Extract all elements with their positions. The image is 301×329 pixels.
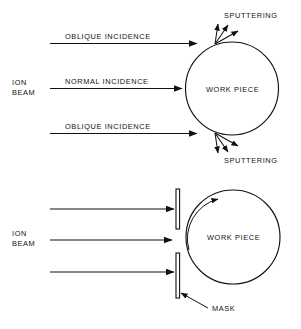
work-piece-label-bottom: WORK PIECE: [207, 233, 260, 242]
work-piece-label-top: WORK PIECE: [206, 85, 259, 94]
ion-beam-label-top-line2: BEAM: [12, 88, 35, 97]
sputtering-label-top: SPUTTERING: [224, 11, 278, 20]
ion-beam-label-bottom-line2: BEAM: [12, 239, 35, 248]
normal-incidence-label: NORMAL INCIDENCE: [65, 77, 149, 86]
sputtering-label-bottom: SPUTTERING: [224, 156, 278, 165]
ion-beam-milling-diagram: ION BEAM OBLIQUE INCIDENCE NORMAL INCIDE…: [0, 0, 301, 329]
mask-bar-upper: [176, 189, 180, 229]
mask-leader-line: [181, 293, 208, 308]
diagram-canvas: ION BEAM OBLIQUE INCIDENCE NORMAL INCIDE…: [0, 0, 301, 329]
ion-beam-label-top-line1: ION: [12, 78, 27, 87]
ion-beam-label-bottom-line1: ION: [12, 229, 27, 238]
lower-oblique-incidence-label: OBLIQUE INCIDENCE: [65, 122, 151, 131]
rotation-arc-arrow: [187, 199, 218, 250]
mask-label: MASK: [212, 304, 235, 313]
mask-bar-lower: [176, 253, 180, 298]
upper-oblique-incidence-label: OBLIQUE INCIDENCE: [65, 32, 151, 41]
